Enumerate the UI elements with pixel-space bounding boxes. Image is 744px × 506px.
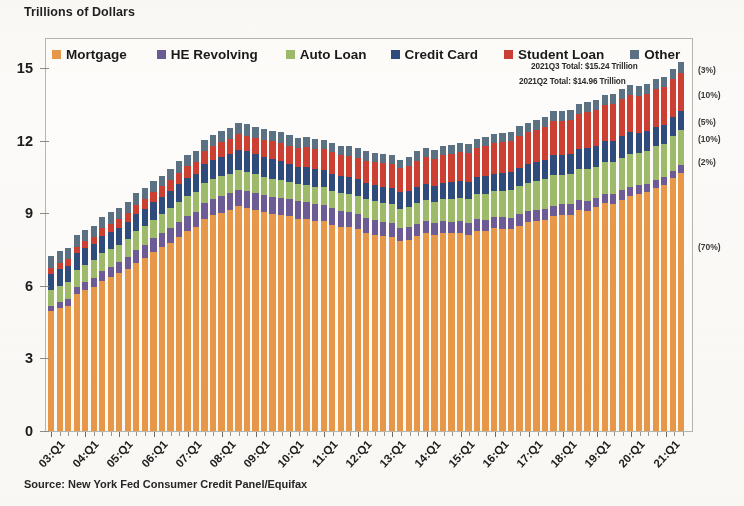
bar-segment-he-revolving	[201, 203, 207, 219]
bar-segment-he-revolving	[193, 212, 199, 227]
bar-19-Q1	[593, 100, 599, 431]
bar-segment-credit-card	[321, 170, 327, 187]
bar-segment-auto-loan	[312, 187, 318, 204]
annotation-2021q2-total: 2021Q2 Total: $14.96 Trillion	[519, 77, 626, 86]
bar-09-Q4	[278, 132, 284, 431]
bar-segment-student-loan	[525, 132, 531, 164]
bar-segment-he-revolving	[533, 210, 539, 221]
bar-segment-credit-card	[193, 174, 199, 192]
bar-segment-auto-loan	[286, 182, 292, 199]
bar-segment-student-loan	[542, 127, 548, 160]
bar-segment-auto-loan	[508, 190, 514, 218]
bar-segment-he-revolving	[363, 218, 369, 233]
bar-segment-other	[65, 248, 71, 260]
bar-segment-mortgage	[363, 233, 369, 431]
bar-segment-mortgage	[636, 194, 642, 431]
bar-segment-he-revolving	[321, 205, 327, 221]
bar-segment-he-revolving	[414, 224, 420, 236]
bar-segment-student-loan	[636, 96, 642, 133]
bar-19-Q2	[602, 95, 608, 431]
bar-segment-credit-card	[440, 183, 446, 199]
source-note: Source: New York Fed Consumer Credit Pan…	[24, 478, 307, 490]
bar-segment-other	[389, 155, 395, 164]
bar-segment-he-revolving	[286, 199, 292, 216]
bar-segment-other	[57, 251, 63, 263]
bar-segment-other	[542, 117, 548, 127]
bar-segment-credit-card	[48, 274, 54, 291]
bar-segment-other	[329, 143, 335, 153]
bar-segment-auto-loan	[567, 174, 573, 204]
bar-segment-other	[278, 132, 284, 142]
bar-segment-he-revolving	[593, 198, 599, 208]
bar-segment-credit-card	[338, 176, 344, 193]
bar-segment-credit-card	[619, 136, 625, 159]
bar-segment-mortgage	[482, 231, 488, 431]
bar-segment-he-revolving	[440, 221, 446, 233]
bar-04-Q4	[108, 212, 114, 431]
bar-segment-other	[355, 148, 361, 157]
bar-segment-he-revolving	[312, 204, 318, 221]
y-tick-label-15: 15	[17, 60, 33, 76]
bar-segment-student-loan	[218, 142, 224, 156]
bar-segment-mortgage	[661, 185, 667, 431]
bar-07-Q1	[184, 155, 190, 431]
bar-segment-student-loan	[355, 158, 361, 180]
bar-segment-he-revolving	[499, 217, 505, 229]
bar-segment-student-loan	[193, 162, 199, 174]
bar-segment-mortgage	[346, 227, 352, 431]
bar-segment-auto-loan	[150, 220, 156, 239]
x-tick-label-17-Q1: 17:Q1	[514, 438, 545, 470]
bar-segment-credit-card	[372, 185, 378, 201]
bar-segment-auto-loan	[576, 169, 582, 200]
bar-segment-other	[201, 140, 207, 151]
bar-segment-other	[431, 150, 437, 159]
bar-segment-auto-loan	[423, 200, 429, 221]
bar-segment-mortgage	[108, 277, 114, 431]
bar-04-Q1	[82, 230, 88, 431]
bar-06-Q2	[159, 176, 165, 431]
bar-segment-student-loan	[252, 138, 258, 154]
bar-segment-student-loan	[167, 180, 173, 191]
bar-18-Q2	[567, 110, 573, 431]
bar-segment-he-revolving	[261, 195, 267, 212]
bar-segment-student-loan	[602, 105, 608, 141]
bar-segment-auto-loan	[627, 154, 633, 187]
bar-segment-other	[244, 124, 250, 135]
bar-segment-he-revolving	[227, 193, 233, 210]
bar-segment-auto-loan	[65, 282, 71, 298]
bar-segment-he-revolving	[91, 278, 97, 287]
bar-segment-mortgage	[431, 235, 437, 431]
chart-root: Trillions of Dollars 03691215 MortgageHE…	[0, 0, 744, 506]
bar-segment-student-loan	[150, 192, 156, 202]
bar-segment-other	[133, 193, 139, 204]
bar-segment-credit-card	[542, 160, 548, 180]
bar-segment-mortgage	[474, 231, 480, 431]
bar-segment-auto-loan	[125, 239, 131, 257]
bar-segment-mortgage	[142, 258, 148, 431]
bar-segment-auto-loan	[678, 130, 684, 165]
bar-segment-other	[286, 135, 292, 145]
bar-segment-auto-loan	[321, 187, 327, 204]
bar-segment-he-revolving	[627, 187, 633, 196]
bar-segment-credit-card	[431, 186, 437, 202]
bar-segment-student-loan	[108, 224, 114, 232]
bar-segment-student-loan	[482, 146, 488, 176]
bar-segment-he-revolving	[610, 194, 616, 204]
bar-segment-other	[653, 79, 659, 89]
bar-segment-other	[261, 129, 267, 140]
bar-20-Q2	[636, 86, 642, 431]
bar-segment-mortgage	[550, 216, 556, 431]
bar-segment-other	[116, 208, 122, 219]
bar-segment-mortgage	[670, 178, 676, 431]
bar-segment-credit-card	[584, 148, 590, 169]
x-tick-label-11-Q1: 11:Q1	[310, 438, 340, 469]
bar-segment-he-revolving	[584, 201, 590, 211]
bar-segment-student-loan	[644, 94, 650, 132]
bar-segment-mortgage	[397, 241, 403, 431]
bar-20-Q3	[644, 84, 650, 431]
bar-segment-he-revolving	[125, 257, 131, 269]
bar-segment-he-revolving	[516, 214, 522, 225]
bar-segment-auto-loan	[482, 194, 488, 220]
bar-segment-he-revolving	[491, 217, 497, 229]
bar-segment-he-revolving	[346, 212, 352, 227]
